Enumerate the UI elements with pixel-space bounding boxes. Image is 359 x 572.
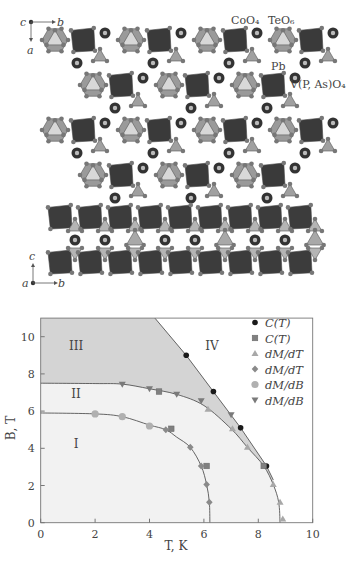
coo4-tetrahedron	[138, 205, 162, 229]
coo4-tetrahedron	[71, 118, 95, 142]
coo4-tetrahedron	[185, 73, 209, 97]
oxygen-atom	[98, 47, 103, 52]
oxygen-atom	[274, 116, 279, 121]
region-label: IV	[205, 339, 219, 353]
y-axis-label: B, T	[4, 416, 18, 440]
oxygen-atom	[104, 83, 109, 88]
oxygen-atom	[257, 149, 262, 154]
oxygen-atom	[333, 59, 338, 64]
data-point-square	[168, 426, 174, 432]
oxygen-atom	[193, 217, 198, 222]
y-tick-label: 6	[28, 405, 35, 418]
x-tick-label: 0	[37, 528, 44, 541]
data-point-circle	[211, 389, 217, 395]
oxygen-atom	[46, 116, 51, 121]
data-point-circle-large	[146, 422, 153, 429]
oxygen-atom	[99, 88, 104, 93]
oxygen-atom	[281, 118, 286, 123]
oxygen-atom	[84, 161, 89, 166]
oxygen-atom	[198, 26, 203, 31]
oxygen-atom	[313, 217, 318, 222]
oxygen-atom	[84, 184, 89, 189]
oxygen-atom	[135, 49, 140, 54]
oxygen-atom	[103, 217, 108, 222]
oxygen-atom	[253, 258, 258, 263]
oxygen-atom	[198, 49, 203, 54]
oxygen-atom	[137, 43, 142, 48]
oxygen-atom	[133, 217, 138, 222]
oxygen-atom	[236, 94, 241, 99]
oxygen-atom	[313, 228, 318, 233]
oxygen-atom	[167, 59, 172, 64]
oxygen-atom	[288, 182, 293, 187]
oxygen-atom	[156, 229, 161, 234]
oxygen-atom	[306, 229, 311, 234]
oxygen-atom	[173, 94, 178, 99]
label-pb: Pb	[271, 60, 285, 73]
oxygen-atom	[196, 133, 201, 138]
oxygen-atom	[260, 246, 265, 251]
legend-label: dM/dB	[265, 378, 304, 392]
oxygen-atom	[78, 173, 83, 178]
legend-label: dM/dB	[265, 394, 304, 408]
oxygen-atom	[73, 258, 78, 263]
oxygen-atom	[97, 71, 102, 76]
oxygen-atom	[59, 116, 64, 121]
region-label: II	[71, 387, 81, 401]
x-tick-label: 8	[255, 528, 262, 541]
oxygen-atom	[82, 178, 87, 183]
oxygen-atom	[122, 49, 127, 54]
oxygen-atom	[44, 43, 49, 48]
oxygen-atom	[46, 139, 51, 144]
data-point-circle	[238, 425, 244, 431]
coo4-tetrahedron	[78, 250, 102, 274]
coo4-tetrahedron	[228, 205, 252, 229]
oxygen-atom	[246, 246, 251, 251]
oxygen-atom	[129, 194, 134, 199]
oxygen-atom	[211, 49, 216, 54]
axis-label-b: b	[58, 277, 65, 290]
oxygen-atom	[84, 71, 89, 76]
oxygen-atom	[174, 137, 179, 142]
oxygen-atom	[97, 94, 102, 99]
coo4-tetrahedron	[261, 163, 285, 187]
oxygen-atom	[319, 149, 324, 154]
oxygen-atom	[304, 243, 309, 248]
coo4-tetrahedron	[198, 250, 222, 274]
oxygen-atom	[236, 71, 241, 76]
oxygen-atom	[186, 246, 191, 251]
oxygen-atom	[167, 149, 172, 154]
oxygen-atom	[320, 229, 325, 234]
oxygen-atom	[46, 49, 51, 54]
oxygen-atom	[251, 178, 256, 183]
oxygen-atom	[141, 243, 146, 248]
coo4-tetrahedron	[223, 28, 247, 52]
coo4-tetrahedron	[288, 205, 312, 229]
coo4-tetrahedron	[71, 28, 95, 52]
oxygen-atom	[122, 116, 127, 121]
oxygen-atom	[257, 59, 262, 64]
oxygen-atom	[268, 128, 273, 133]
oxygen-atom	[99, 178, 104, 183]
oxygen-atom	[73, 217, 78, 222]
oxygen-atom	[61, 133, 66, 138]
coo4-tetrahedron	[258, 250, 282, 274]
oxygen-atom	[142, 38, 147, 43]
oxygen-atom	[129, 104, 134, 109]
oxygen-atom	[211, 116, 216, 121]
oxygen-atom	[283, 258, 288, 263]
oxygen-atom	[256, 173, 261, 178]
oxygen-atom	[200, 246, 205, 251]
oxygen-atom	[84, 94, 89, 99]
oxygen-atom	[230, 83, 235, 88]
coo4-tetrahedron	[168, 250, 192, 274]
oxygen-atom	[174, 47, 179, 52]
oxygen-atom	[223, 217, 228, 222]
coo4-tetrahedron	[258, 205, 282, 229]
oxygen-atom	[243, 163, 248, 168]
data-point-square	[156, 389, 162, 395]
coo4-tetrahedron	[228, 250, 252, 274]
oxygen-atom	[288, 92, 293, 97]
oxygen-atom	[120, 133, 125, 138]
x-tick-label: 2	[92, 528, 99, 541]
